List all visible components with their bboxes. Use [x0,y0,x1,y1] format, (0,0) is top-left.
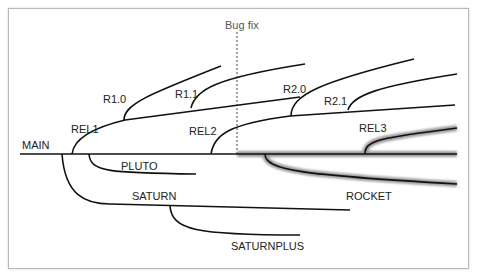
label-bug-fix: Bug fix [225,19,259,31]
rel1-line [72,97,300,154]
r2-0-line [291,59,414,116]
label-r2-1: R2.1 [324,95,347,107]
r1-0-line [124,66,221,120]
saturn-line [62,154,350,210]
label-r1-0: R1.0 [103,93,126,105]
label-saturnplus: SATURNPLUS [231,240,304,252]
label-saturn: SATURN [132,190,176,202]
label-main: MAIN [22,139,50,151]
rel2-line [211,105,455,154]
branch-lines [20,59,457,235]
label-pluto: PLUTO [121,160,158,172]
highlight-halos [237,128,457,184]
saturnplus-line [170,206,300,235]
label-r2-0: R2.0 [283,83,306,95]
label-rel3: REL3 [359,122,387,134]
r2-1-line [348,74,457,110]
label-rel1: REL1 [71,123,99,135]
label-r1-1: R1.1 [175,88,198,100]
branch-diagram: MAIN REL1 R1.0 R1.1 REL2 R2.0 R2.1 REL3 … [0,0,477,274]
label-rocket: ROCKET [346,190,392,202]
label-rel2: REL2 [189,125,217,137]
